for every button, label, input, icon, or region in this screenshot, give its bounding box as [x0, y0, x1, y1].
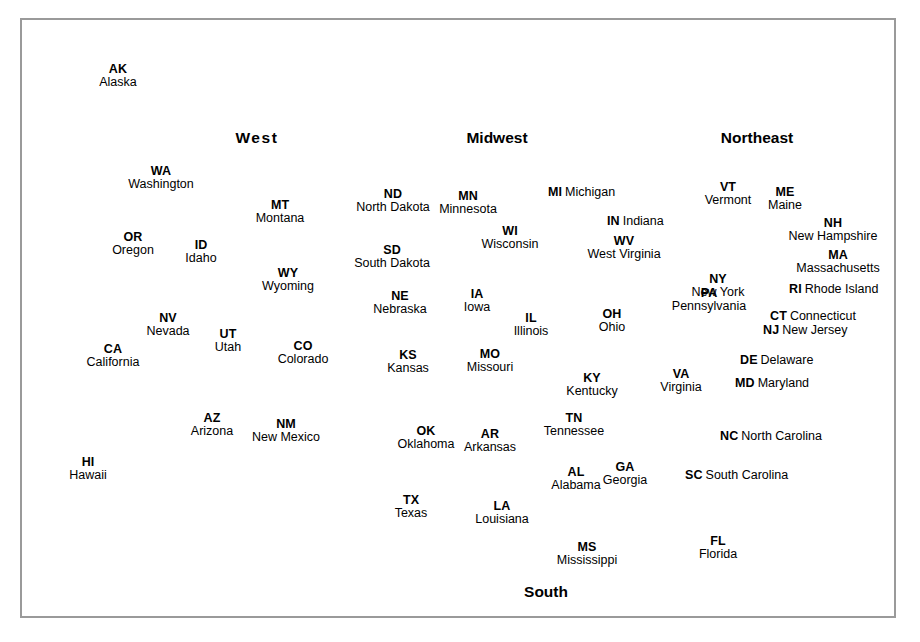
state-name-OK: Oklahoma — [398, 438, 455, 451]
state-abbr-IL: IL — [514, 312, 549, 325]
state-name-IA: Iowa — [464, 301, 490, 314]
state-abbr-RI: RI — [789, 282, 802, 296]
state-label-KY: KYKentucky — [566, 372, 617, 398]
state-label-IL: ILIllinois — [514, 312, 549, 338]
state-abbr-VA: VA — [660, 368, 701, 381]
state-label-AK: AKAlaska — [99, 63, 137, 89]
state-name-NY: New York — [692, 286, 745, 299]
state-label-CO: COColorado — [278, 340, 329, 366]
state-name-AL: Alabama — [551, 479, 600, 492]
state-name-AR: Arkansas — [464, 441, 516, 454]
state-label-AZ: AZArizona — [191, 412, 233, 438]
state-abbr-NY: NY — [692, 273, 745, 286]
state-abbr-PA: PA — [672, 287, 746, 300]
state-abbr-WV: WV — [587, 235, 660, 248]
state-label-DE: DEDelaware — [740, 351, 813, 367]
state-name-WA: Washington — [128, 178, 194, 191]
state-label-TN: TNTennessee — [544, 412, 604, 438]
state-abbr-KS: KS — [387, 349, 429, 362]
state-name-NM: New Mexico — [252, 431, 320, 444]
state-abbr-LA: LA — [475, 500, 529, 513]
state-abbr-NM: NM — [252, 418, 320, 431]
state-label-MN: MNMinnesota — [439, 190, 497, 216]
state-label-MS: MSMississippi — [557, 541, 617, 567]
region-title-midwest: Midwest — [466, 129, 527, 147]
state-label-RI: RIRhode Island — [789, 280, 878, 296]
state-name-VT: Vermont — [705, 194, 752, 207]
state-name-NC: North Carolina — [741, 429, 822, 443]
state-abbr-CO: CO — [278, 340, 329, 353]
state-abbr-ID: ID — [185, 239, 216, 252]
state-name-WV: West Virginia — [587, 248, 660, 261]
state-name-KY: Kentucky — [566, 385, 617, 398]
state-name-OH: Ohio — [599, 321, 625, 334]
state-label-CA: CACalifornia — [87, 343, 140, 369]
state-label-ND: NDNorth Dakota — [356, 188, 430, 214]
state-name-IL: Illinois — [514, 325, 549, 338]
us-regions-map-page: WestMidwestNortheastSouthAKAlaskaWAWashi… — [0, 0, 920, 642]
state-name-MO: Missouri — [467, 361, 514, 374]
state-label-NC: NCNorth Carolina — [720, 427, 822, 443]
state-abbr-TN: TN — [544, 412, 604, 425]
state-label-WA: WAWashington — [128, 165, 194, 191]
state-label-OK: OKOklahoma — [398, 425, 455, 451]
state-abbr-UT: UT — [215, 328, 241, 341]
state-abbr-ME: ME — [768, 186, 802, 199]
state-label-FL: FLFlorida — [699, 535, 737, 561]
state-label-HI: HIHawaii — [69, 456, 107, 482]
state-abbr-MT: MT — [256, 199, 305, 212]
map-label-layer: WestMidwestNortheastSouthAKAlaskaWAWashi… — [0, 0, 920, 642]
state-label-ID: IDIdaho — [185, 239, 216, 265]
state-name-AK: Alaska — [99, 76, 137, 89]
state-abbr-GA: GA — [603, 461, 647, 474]
state-abbr-NV: NV — [146, 312, 189, 325]
state-label-WY: WYWyoming — [262, 267, 314, 293]
state-abbr-MS: MS — [557, 541, 617, 554]
state-label-NH: NHNew Hampshire — [789, 217, 878, 243]
state-abbr-SC: SC — [685, 468, 703, 482]
state-label-LA: LALouisiana — [475, 500, 529, 526]
state-label-NY: NYNew York — [692, 273, 745, 299]
state-abbr-OK: OK — [398, 425, 455, 438]
state-name-ME: Maine — [768, 199, 802, 212]
state-abbr-NC: NC — [720, 429, 738, 443]
state-name-CT: Connecticut — [790, 309, 856, 323]
state-label-MT: MTMontana — [256, 199, 305, 225]
state-label-NV: NVNevada — [146, 312, 189, 338]
state-abbr-MN: MN — [439, 190, 497, 203]
state-abbr-FL: FL — [699, 535, 737, 548]
state-label-ME: MEMaine — [768, 186, 802, 212]
state-abbr-IN: IN — [607, 214, 620, 228]
state-label-MA: MAMassachusetts — [796, 249, 879, 275]
region-title-west: West — [235, 129, 278, 147]
state-abbr-IA: IA — [464, 288, 490, 301]
state-name-OR: Oregon — [112, 244, 154, 257]
state-abbr-WI: WI — [482, 225, 539, 238]
state-name-CO: Colorado — [278, 353, 329, 366]
state-abbr-DE: DE — [740, 353, 758, 367]
state-name-AZ: Arizona — [191, 425, 233, 438]
state-abbr-NE: NE — [373, 290, 427, 303]
state-name-HI: Hawaii — [69, 469, 107, 482]
state-name-CA: California — [87, 356, 140, 369]
state-name-FL: Florida — [699, 548, 737, 561]
state-name-KS: Kansas — [387, 362, 429, 375]
state-abbr-ND: ND — [356, 188, 430, 201]
state-label-SD: SDSouth Dakota — [354, 244, 430, 270]
state-label-PA: PAPennsylvania — [672, 287, 746, 313]
state-name-MD: Maryland — [758, 376, 809, 390]
state-name-IN: Indiana — [623, 214, 664, 228]
state-label-MI: MIMichigan — [548, 183, 615, 199]
state-name-TX: Texas — [395, 507, 428, 520]
state-abbr-OR: OR — [112, 231, 154, 244]
state-abbr-AR: AR — [464, 428, 516, 441]
state-abbr-NJ: NJ — [763, 323, 779, 337]
state-label-GA: GAGeorgia — [603, 461, 647, 487]
state-name-DE: Delaware — [761, 353, 814, 367]
state-name-WY: Wyoming — [262, 280, 314, 293]
state-abbr-MO: MO — [467, 348, 514, 361]
state-label-VA: VAVirginia — [660, 368, 701, 394]
state-abbr-TX: TX — [395, 494, 428, 507]
state-label-MD: MDMaryland — [735, 374, 809, 390]
state-label-VT: VTVermont — [705, 181, 752, 207]
